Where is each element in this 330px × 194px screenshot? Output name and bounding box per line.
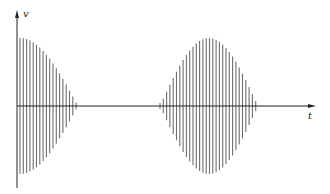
y-axis-arrow-icon bbox=[15, 10, 19, 18]
x-axis-label: t bbox=[308, 110, 312, 121]
x-axis-arrow-icon bbox=[308, 104, 316, 108]
wave-diagram bbox=[0, 0, 330, 194]
y-axis-label: v bbox=[23, 8, 29, 19]
